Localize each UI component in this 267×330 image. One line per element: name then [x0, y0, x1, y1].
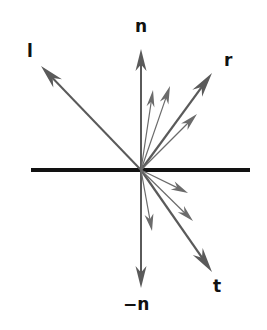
vector-arrow-normal-n	[136, 49, 147, 170]
vector-label-l: l	[27, 43, 33, 60]
vector-arrowhead-transmitted-t	[193, 248, 212, 272]
vector-arrow-reflection-lobe-2	[141, 86, 170, 170]
vector-shaft-reflection-lobe-3	[141, 121, 190, 170]
vector-arrowhead-reflected-r	[192, 73, 212, 97]
vector-arrow-reflected-r	[141, 73, 212, 170]
vector-label-r: r	[224, 52, 232, 69]
vector-arrow-incident-light-l	[41, 66, 141, 170]
vector-label-n: n	[135, 18, 147, 35]
vector-diagram-figure: n −n l r t	[0, 0, 267, 330]
vector-label-t: t	[213, 278, 221, 295]
vector-arrow-negative-normal-n	[136, 170, 147, 288]
vector-shaft-incident-light-l	[50, 76, 141, 170]
vector-arrowhead-transmission-lobe-1	[171, 181, 188, 193]
vector-label-negative-n: −n	[123, 296, 149, 313]
vector-arrow-reflection-lobe-3	[141, 114, 197, 170]
vector-shaft-transmitted-t	[141, 170, 204, 261]
vector-shaft-reflection-lobe-2	[141, 95, 167, 170]
